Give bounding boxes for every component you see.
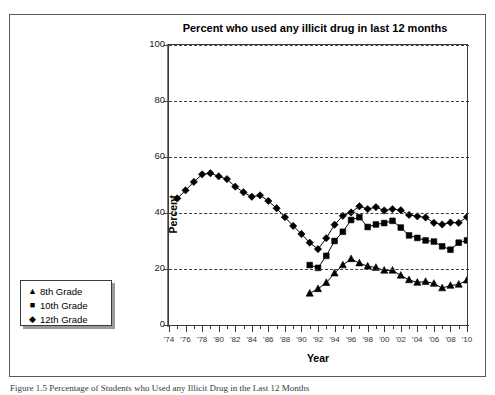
x-tick-mark [244,325,245,329]
data-point-triangle [348,255,355,262]
data-point-diamond [422,214,429,221]
legend-marker-icon: ■ [26,301,39,310]
x-tick-mark [376,325,377,329]
chart-legend: ▲8th Grade■10th Grade◆12th Grade [20,280,112,326]
x-tick-mark [368,325,369,332]
y-tick-mark [163,269,169,270]
data-point-square [390,218,396,224]
data-point-diamond [439,221,446,228]
gridline-y [169,45,469,46]
y-tick-mark [163,157,169,158]
gridline-y [169,213,469,214]
x-tick-mark [434,325,435,332]
data-point-square [357,214,363,220]
gridline-y [169,101,469,102]
legend-item: ■10th Grade [26,298,111,312]
gridline-y [169,269,469,270]
x-tick-mark [384,325,385,332]
data-point-square [365,224,371,230]
x-tick-mark [351,325,352,332]
data-point-triangle [397,272,404,279]
data-point-diamond [389,205,396,212]
data-point-triangle [463,276,467,283]
x-tick-mark [459,325,460,329]
figure-root: Percent who used any illicit drug in las… [0,0,495,395]
gridline-y [169,325,469,326]
x-tick-mark [235,325,236,332]
chart-title: Percent who used any illicit drug in las… [150,22,480,34]
data-point-square [332,238,338,244]
data-point-diamond [455,219,462,226]
data-point-square [414,235,420,241]
x-tick-mark [169,325,170,332]
x-tick-mark [450,325,451,332]
x-tick-mark [177,325,178,329]
y-tick-label: 20 [139,262,165,273]
data-point-triangle [422,278,429,285]
x-tick-label: '10 [456,335,478,344]
x-tick-mark [426,325,427,329]
legend-item-label: 12th Grade [40,314,88,325]
data-point-diamond [248,193,255,200]
data-point-square [456,240,462,246]
x-tick-mark [219,325,220,332]
data-point-square [373,222,379,228]
x-tick-mark [442,325,443,329]
data-point-square [323,253,329,259]
x-axis-title: Year [168,352,468,364]
x-tick-mark [301,325,302,332]
x-tick-mark [310,325,311,329]
data-point-square [423,238,429,244]
data-point-diamond [447,219,454,226]
data-point-diamond [256,192,263,199]
x-tick-mark [285,325,286,332]
data-point-triangle [455,281,462,288]
data-point-square [348,217,354,223]
legend-item: ▲8th Grade [26,284,111,298]
x-tick-mark [293,325,294,329]
plot-inner: 020406080100'74'76'78'80'82'84'86'88'90'… [169,45,467,325]
data-point-diamond [207,170,214,177]
legend-marker-icon: ◆ [26,315,39,324]
y-tick-mark [163,45,169,46]
x-tick-mark [409,325,410,329]
x-tick-mark [260,325,261,329]
data-point-square [340,229,346,235]
x-tick-mark [343,325,344,329]
x-tick-mark [268,325,269,332]
x-tick-mark [202,325,203,332]
y-tick-label: 0 [139,318,165,329]
data-point-square [307,262,313,268]
x-tick-mark [277,325,278,329]
data-point-square [464,238,467,244]
x-tick-mark [401,325,402,332]
data-point-triangle [314,285,321,292]
y-tick-label: 40 [139,206,165,217]
data-point-diamond [372,203,379,210]
plot-area: 020406080100'74'76'78'80'82'84'86'88'90'… [168,44,468,326]
data-point-square [439,243,445,249]
y-tick-mark [163,101,169,102]
x-tick-mark [359,325,360,329]
x-tick-mark [393,325,394,329]
data-point-square [448,247,454,253]
data-point-square [406,233,412,239]
data-point-diamond [364,205,371,212]
data-point-triangle [306,289,313,296]
legend-item-label: 10th Grade [40,300,88,311]
x-tick-mark [335,325,336,332]
data-point-diamond [240,189,247,196]
data-point-square [398,225,404,231]
data-point-square [381,220,387,226]
x-tick-mark [326,325,327,329]
data-point-triangle [405,276,412,283]
x-tick-mark [252,325,253,332]
x-tick-mark [194,325,195,329]
y-tick-label: 100 [139,38,165,49]
x-tick-mark [186,325,187,332]
gridline-y [169,157,469,158]
data-point-diamond [356,203,363,210]
legend-item: ◆12th Grade [26,312,111,326]
y-tick-label: 80 [139,94,165,105]
figure-caption: Figure 1.5 Percentage of Students who Us… [10,383,486,395]
